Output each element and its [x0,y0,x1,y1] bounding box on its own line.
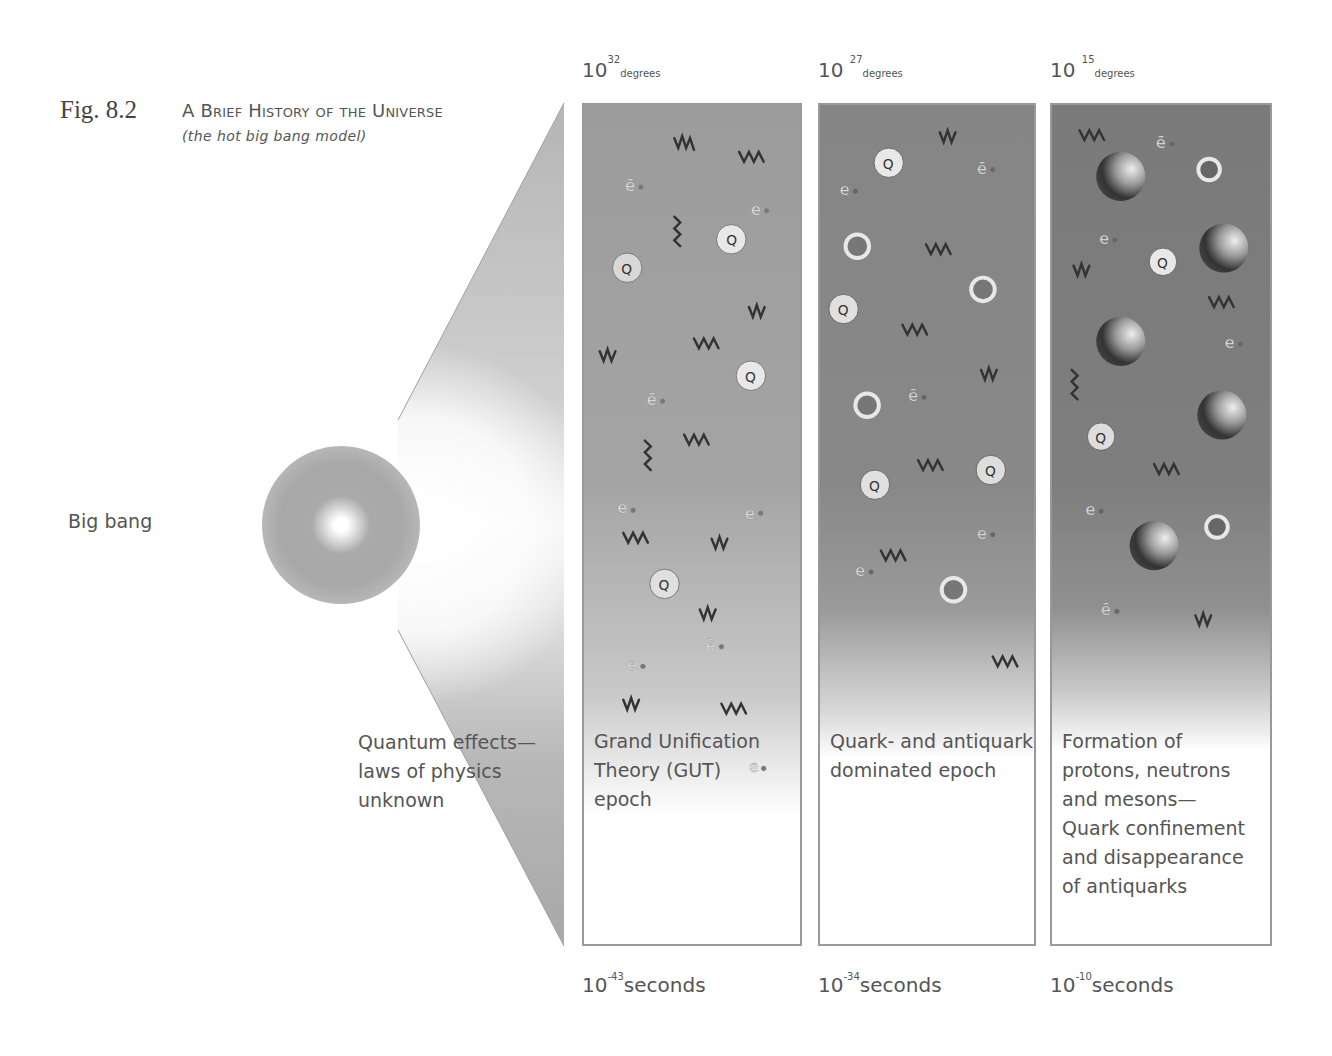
photon-icon [600,349,616,361]
photon-icon [749,305,765,317]
meson-icon [846,234,995,601]
epoch-label-line: Quark confinement [1062,814,1245,843]
photon-icon [902,325,927,335]
photon-icon [623,698,639,710]
temp-base: 10 [1050,58,1075,82]
svg-text:Q: Q [985,463,996,479]
quantum-label-line: laws of physics [358,757,536,786]
positron-icon: ē [1156,133,1166,152]
positron-icon: ē [706,636,716,655]
photon-icon [1079,130,1104,140]
photon-icon [918,460,943,470]
quantum-effects-label: Quantum effects— laws of physics unknown [358,728,536,815]
time-label-hadron: 10-10seconds [1050,973,1174,997]
svg-text:Q: Q [621,261,632,277]
positron-icon: ē [647,390,657,409]
epoch-label-line: protons, neutrons [1062,756,1245,785]
electron-icon: e [617,498,627,517]
temp-unit: degrees [863,68,903,79]
temperature-label-quark: 10 27degrees [818,58,903,82]
photon-icon [674,136,694,150]
electron-icon: e [840,180,850,199]
proton-icon [1096,152,1248,570]
time-unit: seconds [1092,973,1174,997]
temperature-label-hadron: 10 15degrees [1050,58,1135,82]
epoch-label-hadron: Formation of protons, neutrons and meson… [1062,727,1245,901]
time-base: 10 [582,973,607,997]
quantum-label-line: unknown [358,786,536,815]
photon-icon [674,217,680,246]
electron-icon: e [745,504,755,523]
temp-base: 10 [582,58,607,82]
temp-exponent: 15 [1082,54,1095,65]
quark-icon: Q [650,569,679,598]
electron-icon: e [1085,500,1095,519]
svg-text:Q: Q [1095,430,1106,446]
photon-icon [700,607,716,619]
positron-icon: ē [908,386,918,405]
positron-icon: ē [977,159,987,178]
photon-icon [1209,297,1234,307]
epoch-panel-quark: Q Q Q Q ē e ē e e Quark- and antiquark- … [818,103,1036,946]
svg-text:Q: Q [869,478,880,494]
photon-icon [926,244,951,254]
temp-base: 10 [818,58,843,82]
photon-icon [881,551,906,561]
epoch-label-line: Formation of [1062,727,1245,756]
epoch-label-line: Theory (GUT) [594,756,760,785]
electron-icon: e [1225,333,1235,352]
epoch-label-line: of antiquarks [1062,872,1245,901]
particle-field-gut: Q Q Q Q ē e ē e e ē e e [584,105,800,944]
epoch-label-quark: Quark- and antiquark- dominated epoch [830,727,1036,785]
epoch-label-line: Quark- and antiquark- [830,727,1036,756]
photon-icon [684,435,709,445]
electron-icon: e [751,200,761,219]
quark-icon: Q [1149,248,1176,275]
epoch-label-line: and disappearance [1062,843,1245,872]
photon-icon [993,657,1018,667]
photon-icon [940,130,956,142]
positron-icon: ē [1101,600,1111,619]
photon-icon [1195,613,1211,625]
electron-icon: e [977,524,987,543]
photon-icon [645,441,651,470]
photon-icon [712,537,728,549]
photon-icon [739,152,764,162]
photon-icon [623,533,648,543]
antiquark-icon: Q [976,455,1005,484]
photon-icon [1074,264,1090,276]
temp-unit: degrees [620,68,660,79]
photon-icon [1154,464,1179,474]
epoch-panel-gut: Q Q Q Q ē e ē e e ē e e Grand Unificatio… [582,103,802,946]
positron-icon: ē [625,176,635,195]
quark-icon: Q [860,470,889,499]
quark-icon: Q [736,361,765,390]
svg-text:Q: Q [1157,255,1168,271]
epoch-label-line: dominated epoch [830,756,1036,785]
electron-icon: e [1099,229,1109,248]
epoch-label-line: epoch [594,785,760,814]
antiquark-icon: Q [1087,423,1114,450]
temp-unit: degrees [1095,68,1135,79]
quark-icon: Q [717,225,746,254]
svg-text:Q: Q [883,156,894,172]
photon-icon [721,704,746,714]
time-label-quark: 10-34seconds [818,973,942,997]
particle-field-quark: Q Q Q Q ē e ē e e [820,105,1034,944]
time-exponent: -34 [843,971,859,982]
time-base: 10 [818,973,843,997]
photon-icon [1072,370,1078,399]
epoch-label-line: Grand Unification [594,727,760,756]
epoch-panel-hadron: Q Q ē e e e ē Formation of protons, neut… [1050,103,1272,946]
svg-text:Q: Q [726,232,737,248]
antiquark-icon: Q [874,148,903,177]
antiquark-icon: Q [612,253,641,282]
time-exponent: -10 [1075,971,1091,982]
temp-exponent: 32 [607,54,620,65]
electron-icon: e [855,561,865,580]
time-base: 10 [1050,973,1075,997]
photon-icon [981,368,997,380]
svg-text:Q: Q [838,302,849,318]
photon-icon [694,338,719,348]
meson-icon [1198,159,1227,538]
